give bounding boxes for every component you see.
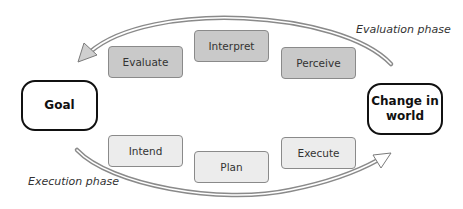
execution-phase-label: Execution phase <box>28 175 119 188</box>
goal-node: Goal <box>21 80 98 131</box>
stage-interpret: Interpret <box>194 30 269 62</box>
stage-evaluate: Evaluate <box>108 46 183 78</box>
evaluation-phase-label: Evaluation phase <box>356 23 451 36</box>
change-in-world-label-line1: Change in <box>371 94 439 109</box>
stage-perceive: Perceive <box>281 47 356 79</box>
stage-intend-label: Intend <box>129 145 163 157</box>
change-in-world-node: Change in world <box>367 83 443 135</box>
stage-execute: Execute <box>281 137 356 169</box>
stage-plan-label: Plan <box>220 161 242 173</box>
stage-intend: Intend <box>108 135 183 167</box>
change-in-world-label-line2: world <box>386 109 424 124</box>
stage-interpret-label: Interpret <box>209 40 255 52</box>
stage-evaluate-label: Evaluate <box>123 56 169 68</box>
stage-execute-label: Execute <box>298 147 340 159</box>
stage-plan: Plan <box>194 151 269 183</box>
goal-label: Goal <box>44 98 74 113</box>
stage-perceive-label: Perceive <box>296 57 340 69</box>
